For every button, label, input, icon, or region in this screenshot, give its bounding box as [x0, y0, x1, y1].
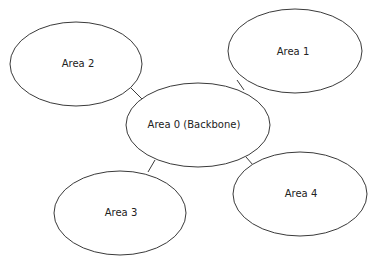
link-area0-area2	[131, 88, 143, 100]
node-label: Area 3	[105, 207, 138, 218]
node-area3: Area 3	[54, 171, 186, 255]
link-area0-area1	[237, 80, 244, 90]
node-label: Area 1	[277, 46, 310, 57]
ospf-area-diagram: Area 2 Area 1 Area 0 (Backbone) Area 3 A…	[0, 0, 372, 260]
node-area1: Area 1	[228, 9, 362, 93]
node-label: Area 4	[285, 188, 318, 199]
node-area4: Area 4	[233, 152, 367, 236]
link-area0-area3	[148, 160, 155, 172]
node-label: Area 2	[62, 58, 95, 69]
link-area0-area4	[246, 157, 253, 165]
node-area2: Area 2	[10, 22, 142, 106]
node-label: Area 0 (Backbone)	[148, 119, 241, 130]
node-area0-backbone: Area 0 (Backbone)	[126, 83, 270, 167]
